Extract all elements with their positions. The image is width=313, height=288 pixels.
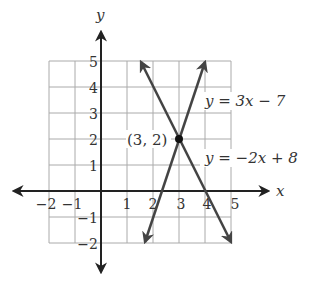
- svg-text:5: 5: [231, 196, 240, 212]
- svg-text:−1: −1: [77, 210, 98, 226]
- svg-text:−2: −2: [77, 236, 98, 252]
- svg-text:−2: −2: [36, 196, 57, 212]
- y-tick-labels: 5 4 3 2 1 −1 −2: [77, 54, 98, 252]
- svg-text:4: 4: [89, 80, 98, 96]
- svg-text:3: 3: [177, 196, 186, 212]
- y-axis-label: y: [95, 6, 105, 24]
- equation-label-2: y = −2x + 8: [204, 149, 298, 167]
- svg-text:2: 2: [89, 132, 98, 148]
- graph: x y −2 −1 1 2 3 4 5 5 4 3 2 1 −1 −2 (3, …: [0, 0, 313, 288]
- svg-text:1: 1: [89, 158, 98, 174]
- equation-label-1: y = 3x − 7: [204, 92, 286, 110]
- svg-text:5: 5: [89, 54, 98, 70]
- intersection-point: [175, 135, 183, 143]
- x-axis-label: x: [276, 182, 285, 200]
- svg-text:1: 1: [123, 196, 132, 212]
- svg-text:3: 3: [89, 106, 98, 122]
- intersection-label: (3, 2): [127, 131, 167, 149]
